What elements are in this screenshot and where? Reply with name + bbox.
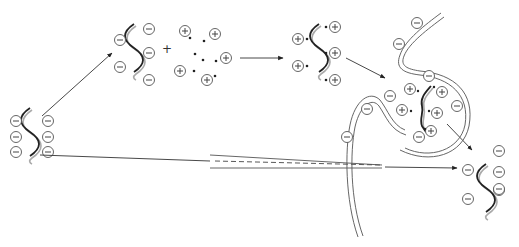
negative-charge-icon — [11, 116, 54, 158]
microinjection-needle — [210, 155, 382, 168]
plus-operator: + — [162, 42, 172, 56]
endocytic-vesicle — [394, 13, 471, 157]
counter-ion-dots — [306, 26, 328, 82]
diagram-canvas: + — [0, 0, 519, 247]
negative-charge-icon — [394, 18, 463, 143]
positive-charge-icon — [175, 26, 232, 86]
negative-charge-icon — [463, 146, 505, 205]
negative-charge-icon — [342, 91, 396, 143]
positive-charge-icon — [293, 22, 341, 86]
counter-ion-dots — [189, 37, 218, 78]
released-dna — [463, 146, 505, 221]
cell-membrane — [342, 91, 407, 238]
dna-cation-complex — [293, 22, 341, 86]
dna-plus-cations: + — [115, 24, 232, 86]
